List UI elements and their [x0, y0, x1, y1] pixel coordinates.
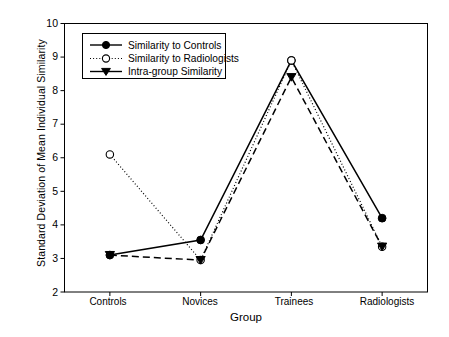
data-point-marker	[288, 57, 295, 64]
data-point-marker	[287, 74, 296, 82]
legend-label: Similarity to Controls	[128, 40, 221, 51]
data-point-marker	[378, 214, 386, 222]
chart-figure: Standard Deviation of Mean Individual Si…	[0, 0, 449, 337]
plot-area: Similarity to Controls Similarity to Rad…	[0, 0, 449, 337]
legend-label: Similarity to Radiologists	[128, 53, 239, 64]
data-point-marker	[197, 236, 205, 244]
open-circle-icon	[102, 55, 109, 62]
series-markers	[105, 57, 386, 265]
series-lines	[110, 60, 382, 260]
series-line	[110, 60, 382, 260]
legend: Similarity to Controls Similarity to Rad…	[83, 34, 239, 79]
y-axis-ticks	[61, 24, 65, 293]
data-point-marker	[106, 151, 113, 158]
filled-circle-icon	[102, 41, 109, 48]
series-line	[110, 77, 382, 260]
legend-label: Intra-group Similarity	[128, 66, 223, 77]
x-axis-ticks	[110, 292, 382, 296]
series-line	[110, 60, 382, 255]
